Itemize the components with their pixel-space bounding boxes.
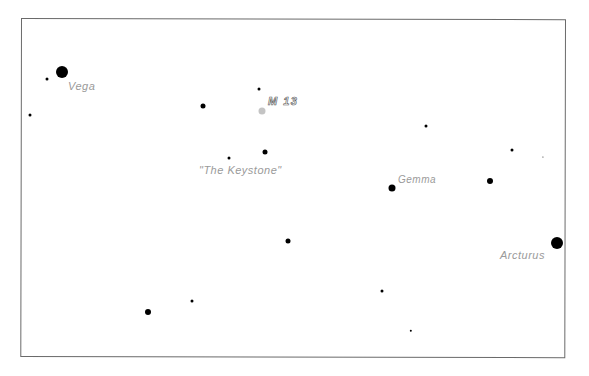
label-gemma: Gemma [398, 174, 436, 185]
star-s11 [286, 239, 291, 244]
star-s13 [191, 300, 194, 303]
star-s10 [487, 178, 493, 184]
star-s3 [258, 88, 261, 91]
star-m13 [259, 108, 266, 115]
star-s5 [263, 150, 268, 155]
label-arcturus: Arcturus [500, 249, 545, 261]
star-s7 [425, 125, 428, 128]
star-arcturus [551, 237, 563, 249]
star-s12 [145, 309, 151, 315]
label-m13: M 13 [268, 95, 298, 107]
star-gemma [389, 185, 396, 192]
star-s6 [228, 157, 231, 160]
star-s2 [29, 114, 32, 117]
star-s14 [381, 290, 384, 293]
label-the-keystone: "The Keystone" [199, 164, 282, 176]
star-vega [56, 66, 68, 78]
star-s4 [201, 104, 206, 109]
label-vega: Vega [68, 80, 95, 92]
chart-frame [20, 18, 566, 358]
star-s1 [46, 78, 49, 81]
star-s8 [511, 149, 514, 152]
